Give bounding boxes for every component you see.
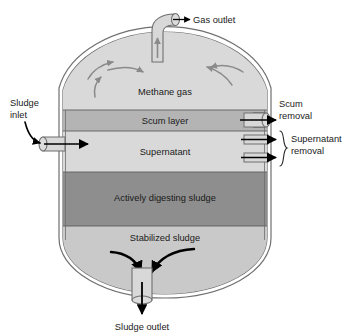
sludge-inlet-leader	[25, 122, 40, 143]
supernatant-removal-label-line2: removal	[291, 146, 324, 156]
sludge-inlet-label-line2: inlet	[10, 110, 27, 120]
gas-outlet-label: Gas outlet	[193, 15, 236, 25]
digester-diagram: Gas outlet Sludge inlet Scum removal	[0, 0, 351, 335]
supernatant-removal-label-line1: Supernatant	[291, 134, 342, 144]
supernatant-brace	[280, 131, 287, 166]
scum-removal-label-line2: removal	[279, 111, 312, 121]
label-stabilized-sludge: Stabilized sludge	[130, 233, 200, 243]
sludge-outlet-label: Sludge outlet	[115, 322, 170, 332]
sludge-outlet-pipe	[132, 268, 152, 314]
digester-diagram-svg: Gas outlet Sludge inlet Scum removal	[0, 0, 351, 335]
sludge-inlet-label-line1: Sludge	[10, 98, 39, 108]
label-supernatant: Supernatant	[140, 147, 191, 157]
label-actively-digesting-sludge: Actively digesting sludge	[114, 193, 216, 203]
scum-removal-label-line1: Scum	[279, 99, 303, 109]
label-scum-layer: Scum layer	[142, 116, 189, 126]
label-methane-gas: Methane gas	[138, 87, 192, 97]
